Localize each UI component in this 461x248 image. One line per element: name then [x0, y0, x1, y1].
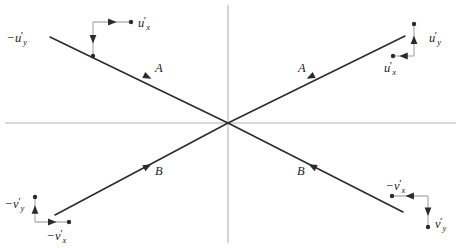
diagram-canvas	[0, 0, 461, 248]
frame-top-right-x-arrowhead	[399, 53, 408, 60]
ray-lower-right-label: B	[297, 165, 305, 178]
frame-top-right-y-arrowhead	[411, 36, 418, 45]
ray-upper-left-arrowhead	[142, 72, 151, 79]
frame-top-left-y-arrowhead	[90, 35, 97, 44]
ray-lower-right-arrowhead	[309, 164, 318, 171]
ray-lower-left-label: B	[155, 165, 163, 178]
frame-top-left-minus-u-prime-y-label: −u′y	[7, 30, 27, 46]
frame-bottom-right-y-arrowhead	[425, 207, 432, 216]
frame-bottom-left-minus-v-prime-y-label: −v′y	[5, 196, 24, 212]
component-frames	[32, 19, 432, 230]
ray-lower-left-arrowhead	[142, 164, 151, 171]
frame-top-left-y-endpoint-dot	[91, 54, 95, 58]
frame-top-left-u-prime-x-label: u′x	[138, 15, 150, 31]
ray-upper-left-label: A	[155, 62, 163, 75]
frame-top-right-u-prime-y-label: u′y	[429, 30, 441, 46]
ray-upper-left	[50, 37, 228, 123]
ray-upper-right-arrowhead	[307, 72, 316, 79]
vector-diagram-figure: AABBu′x−u′yu′xu′y−v′x−v′y−v′xv′y	[0, 0, 461, 248]
frame-bottom-left-minus-v-prime-x-label: −v′x	[47, 228, 66, 244]
ray-upper-right	[228, 36, 405, 123]
ray-lower-left	[55, 123, 228, 215]
frame-bottom-right-minus-v-prime-x-label: −v′x	[386, 178, 405, 194]
frame-bottom-right-x-endpoint-dot	[390, 194, 394, 198]
frame-top-right-y-endpoint-dot	[412, 22, 416, 26]
frame-bottom-left-x-endpoint-dot	[67, 220, 71, 224]
frame-bottom-left-y-endpoint-dot	[33, 195, 37, 199]
frame-bottom-right-v-prime-y-label: v′y	[435, 216, 446, 232]
frame-top-left-x-arrowhead	[108, 19, 117, 26]
frame-bottom-left-x-arrowhead	[48, 219, 57, 226]
frame-bottom-right-y-endpoint-dot	[426, 225, 430, 229]
ray-upper-right-label: A	[298, 62, 306, 75]
frame-bottom-left-y-arrowhead	[32, 205, 39, 214]
frame-bottom-right-x-arrowhead	[405, 193, 414, 200]
frame-top-right-x-endpoint-dot	[391, 54, 395, 58]
frame-top-left-x-endpoint-dot	[129, 20, 133, 24]
frame-top-right-u-prime-x-label: u′x	[384, 60, 396, 76]
